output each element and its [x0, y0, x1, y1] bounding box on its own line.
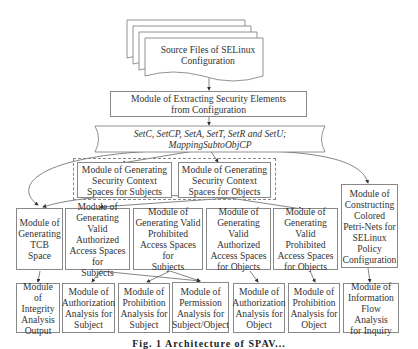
r4-5-l2: Prohibition — [290, 297, 337, 308]
extract-security-elements-module: Module of Extracting Security Elementsfr… — [110, 91, 307, 117]
permission-analysis-module: Module ofPermissionAnalysis forSubject/O… — [172, 282, 229, 333]
authorized-objects-module: Module ofGenerating ValidAuthorizedAcces… — [206, 208, 271, 270]
r3-3-l5: for Objects — [208, 261, 269, 272]
r4-4-l1: Module of — [232, 286, 285, 297]
r3-3-l2: Generating Valid — [208, 217, 269, 239]
r3-2-l3: Prohibited — [135, 228, 201, 239]
prohibition-subject-module: Module ofProhibitionAnalysis forSubject — [118, 283, 170, 333]
authorized-subjects-module: Module ofGenerating ValidAuthorizedAcces… — [65, 208, 130, 270]
ctx-obj-l1: Module of Generating — [182, 164, 267, 175]
source-line-2: Configuration — [161, 55, 256, 66]
r3-0-l2: Generating — [18, 228, 61, 239]
petri-l7: Configuration — [343, 254, 397, 265]
source-line-1: Source Files of SELinux — [161, 44, 256, 55]
r4-6-l4: for Inquiry — [345, 325, 397, 336]
r3-1-l1: Module of — [67, 201, 128, 212]
r3-4-l1: Module of — [275, 206, 336, 217]
petri-l1: Module of — [343, 188, 397, 199]
r3-1-l2: Generating Valid — [67, 212, 128, 234]
petri-l4: Petri-Nets for — [343, 221, 397, 232]
petri-l5: SELinux — [343, 232, 397, 243]
r3-3-l1: Module of — [208, 206, 269, 217]
r3-0-l1: Module of — [18, 217, 61, 228]
r4-2-l3: Analysis for — [120, 308, 167, 319]
tcb-space-module: Module ofGeneratingTCB Space — [16, 208, 63, 270]
r4-0-l1: Module of — [18, 281, 58, 303]
r4-4-l3: Analysis for — [232, 308, 285, 319]
r3-2-l5: Subjects — [135, 261, 201, 272]
r4-5-l1: Module of — [290, 286, 337, 297]
r4-6-l2: Information — [345, 292, 397, 303]
petri-nets-module: Module ofConstructingColoredPetri-Nets f… — [341, 184, 398, 268]
r3-2-l4: Access Spaces for — [135, 239, 201, 261]
r3-1-l4: Access Spaces for — [67, 245, 128, 267]
r4-5-l3: Analysis for — [290, 308, 337, 319]
r4-3-l2: Permission — [172, 297, 229, 308]
prohibited-subjects-module: Module ofGenerating ValidProhibitedAcces… — [133, 208, 203, 270]
r3-4-l3: Prohibited — [275, 239, 336, 250]
r4-2-l4: Subject — [120, 319, 167, 330]
integrity-analysis-module: Module ofIntegrityAnalysisOutput — [16, 283, 60, 333]
petri-l6: Policy — [343, 243, 397, 254]
petri-l3: Colored — [343, 210, 397, 221]
r3-2-l2: Generating Valid — [135, 217, 201, 228]
extract-line-2: from Configuration — [131, 104, 286, 115]
r4-1-l2: Authorization — [62, 297, 115, 308]
source-files-node: Source Files of SELinuxConfiguration — [148, 40, 268, 70]
r4-4-l2: Authorization — [232, 297, 285, 308]
r3-1-l5: Subjects — [67, 267, 128, 278]
ctx-subj-l3: Spaces for Subjects — [82, 186, 167, 197]
r3-3-l3: Authorized — [208, 239, 269, 250]
r3-4-l2: Generating Valid — [275, 217, 336, 239]
context-objects-module: Module of GeneratingSecurity ContextSpac… — [178, 162, 271, 198]
r3-1-l3: Authorized — [67, 234, 128, 245]
information-flow-module: Module ofInformationFlow Analysisfor Inq… — [343, 283, 399, 333]
r4-0-l4: Output — [18, 325, 58, 336]
r3-0-l3: TCB Space — [18, 239, 61, 261]
sets-line-2: MappingSubtoObjCP — [134, 139, 287, 150]
r4-3-l3: Analysis for — [172, 308, 229, 319]
prohibited-objects-module: Module ofGenerating ValidProhibitedAcces… — [273, 208, 338, 270]
r3-3-l4: Access Spaces — [208, 250, 269, 261]
extract-line-1: Module of Extracting Security Elements — [131, 93, 286, 104]
authorization-subject-module: Module ofAuthorizationAnalysis forSubjec… — [62, 283, 115, 333]
r4-6-l3: Flow Analysis — [345, 303, 397, 325]
r4-1-l1: Module of — [62, 286, 115, 297]
authorization-object-module: Module ofAuthorizationAnalysis forObject — [233, 283, 285, 333]
r4-0-l2: Integrity — [18, 303, 58, 314]
r4-2-l2: Prohibition — [120, 297, 167, 308]
sets-line-1: SetC, SetCP, SetA, SetT, SetR and SetU; — [134, 128, 287, 139]
prohibition-object-module: Module ofProhibitionAnalysis forObject — [288, 283, 340, 333]
ctx-subj-l1: Module of Generating — [82, 164, 167, 175]
r4-4-l4: Object — [232, 319, 285, 330]
r4-0-l3: Analysis — [18, 314, 58, 325]
r4-5-l4: Object — [290, 319, 337, 330]
ctx-subj-l2: Security Context — [82, 175, 167, 186]
r4-3-l4: Subject/Object — [172, 319, 229, 330]
r3-2-l1: Module of — [135, 206, 201, 217]
petri-l2: Constructing — [343, 199, 397, 210]
sets-node: SetC, SetCP, SetA, SetT, SetR and SetU;M… — [100, 126, 320, 152]
r4-2-l1: Module of — [120, 286, 167, 297]
ctx-obj-l2: Security Context — [182, 175, 267, 186]
r3-4-l5: for Objects — [275, 261, 336, 272]
r4-6-l1: Module of — [345, 281, 397, 292]
r4-1-l4: Subject — [62, 319, 115, 330]
r3-4-l4: Access Spaces — [275, 250, 336, 261]
r4-1-l3: Analysis for — [62, 308, 115, 319]
r4-3-l1: Module of — [172, 286, 229, 297]
figure-caption: Fig. 1 Architecture of SPAV... — [0, 338, 418, 349]
ctx-obj-l3: Spaces for Objects — [182, 186, 267, 197]
context-subjects-module: Module of GeneratingSecurity ContextSpac… — [77, 162, 172, 198]
